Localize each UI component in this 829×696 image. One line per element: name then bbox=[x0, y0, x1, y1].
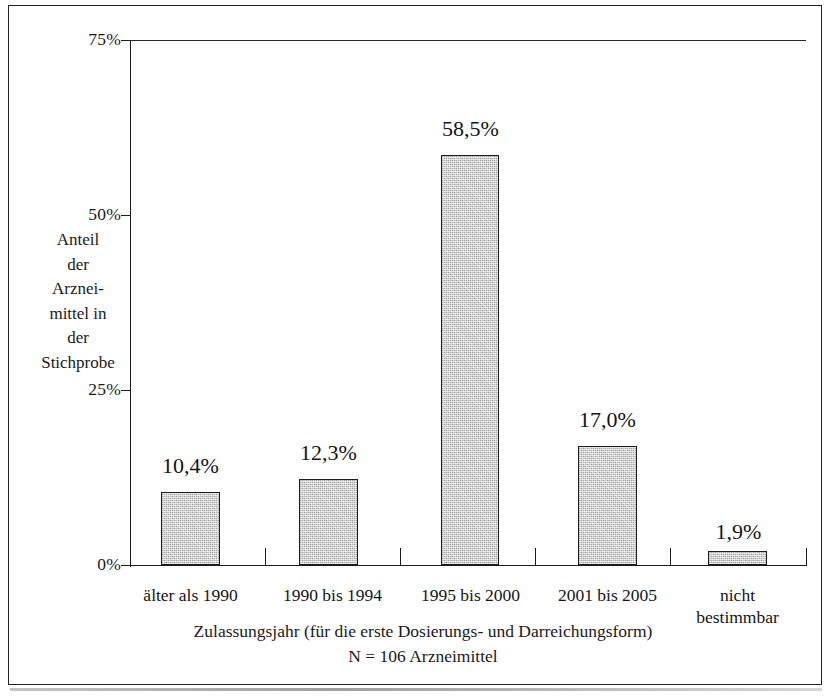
bar-value-label-2: 12,3% bbox=[274, 442, 383, 464]
y-tick-label-25: 25% bbox=[63, 381, 121, 399]
category-label-4: 2001 bis 2005 bbox=[542, 584, 673, 606]
bar-aelter-als-1990[interactable] bbox=[161, 492, 220, 565]
y-axis-title-line-6: Stichprobe bbox=[30, 351, 126, 376]
x-axis-title-note: N = 106 Arzneimittel bbox=[113, 644, 733, 669]
x-axis-title-line-1: Zulassungsjahr (für die erste Dosierungs… bbox=[113, 619, 733, 644]
bar-value-label-1: 10,4% bbox=[136, 455, 245, 477]
y-tick-label-0: 0% bbox=[63, 556, 121, 574]
category-label-3-line-1: 1995 bis 2000 bbox=[405, 584, 536, 606]
y-axis-title-line-3: Arznei- bbox=[30, 277, 126, 302]
y-axis-title-line-4: mittel in bbox=[30, 302, 126, 327]
bar-1990-bis-1994[interactable] bbox=[299, 479, 358, 565]
bar-nicht-bestimmbar[interactable] bbox=[708, 551, 767, 565]
x-tick-1 bbox=[265, 548, 266, 565]
bar-chart-figure: 0% 25% 50% 75% Anteil der Arznei- mittel… bbox=[0, 0, 829, 696]
bar-value-label-3: 58,5% bbox=[416, 118, 525, 140]
y-tick-75 bbox=[121, 40, 130, 41]
y-tick-25 bbox=[121, 390, 130, 391]
bar-2001-bis-2005[interactable] bbox=[578, 446, 637, 565]
category-label-2-line-1: 1990 bis 1994 bbox=[267, 584, 398, 606]
x-axis-line bbox=[130, 565, 806, 566]
category-label-1: älter als 1990 bbox=[125, 584, 256, 606]
category-label-3: 1995 bis 2000 bbox=[405, 584, 536, 606]
figure-border-shadow bbox=[10, 688, 822, 691]
y-axis-title-line-2: der bbox=[30, 253, 126, 278]
category-label-4-line-1: 2001 bis 2005 bbox=[542, 584, 673, 606]
bar-value-label-4: 17,0% bbox=[553, 409, 662, 431]
x-axis-title: Zulassungsjahr (für die erste Dosierungs… bbox=[113, 619, 733, 669]
y-axis-line bbox=[130, 40, 131, 567]
x-tick-3 bbox=[535, 548, 536, 565]
x-tick-2 bbox=[400, 548, 401, 565]
bar-1995-bis-2000[interactable] bbox=[441, 155, 499, 565]
y-tick-0 bbox=[121, 565, 130, 566]
x-axis-end-tick bbox=[806, 548, 807, 566]
category-label-5-line-1: nicht bbox=[672, 584, 803, 606]
category-label-2: 1990 bis 1994 bbox=[267, 584, 398, 606]
plot-top-rule bbox=[130, 40, 806, 41]
y-axis-title-line-1: Anteil bbox=[30, 228, 126, 253]
y-axis-title-line-5: der bbox=[30, 326, 126, 351]
y-tick-label-50: 50% bbox=[63, 206, 121, 224]
y-tick-50 bbox=[121, 215, 130, 216]
y-axis-title: Anteil der Arznei- mittel in der Stichpr… bbox=[30, 228, 126, 375]
x-tick-4 bbox=[670, 548, 671, 565]
category-label-1-line-1: älter als 1990 bbox=[125, 584, 256, 606]
y-tick-label-75: 75% bbox=[63, 31, 121, 49]
bar-value-label-5: 1,9% bbox=[684, 521, 793, 543]
